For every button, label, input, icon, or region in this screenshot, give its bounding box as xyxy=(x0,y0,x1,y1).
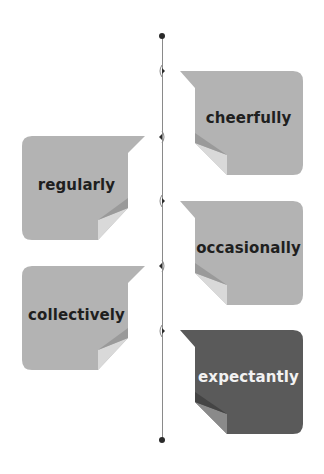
card-label: collectively xyxy=(22,306,131,324)
timeline-card-collectively: collectively xyxy=(22,266,145,370)
timeline-marker-right-icon xyxy=(157,195,167,207)
timeline-card-occasionally: occasionally xyxy=(180,201,303,305)
card-label: regularly xyxy=(22,176,131,194)
card-label: expectantly xyxy=(194,368,303,386)
timeline-marker-left-icon xyxy=(157,131,167,143)
timeline-end-dot xyxy=(159,437,165,443)
card-label: occasionally xyxy=(194,239,303,257)
timeline-card-expectantly: expectantly xyxy=(180,330,303,434)
timeline-card-cheerfully: cheerfully xyxy=(180,71,303,175)
timeline-line xyxy=(162,36,163,440)
card-label: cheerfully xyxy=(194,109,303,127)
timeline-marker-right-icon xyxy=(157,65,167,77)
timeline-start-dot xyxy=(159,33,165,39)
timeline-marker-right-icon xyxy=(157,325,167,337)
timeline-card-regularly: regularly xyxy=(22,136,145,240)
timeline-marker-left-icon xyxy=(157,260,167,272)
